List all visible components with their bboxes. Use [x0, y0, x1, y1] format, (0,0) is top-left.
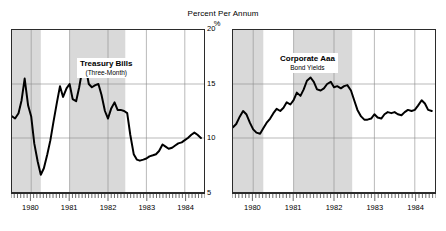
series-label-corporate-aaa-sub: Bond Yields: [280, 64, 335, 72]
x-axis-ticks-left: [11, 193, 205, 203]
x-tick-label-1983: 1983: [366, 204, 383, 212]
x-axis-right: 19801981198219831984: [232, 193, 436, 213]
series-label-treasury-bills-main: Treasury Bills: [80, 59, 132, 68]
x-tick-label-1984: 1984: [407, 204, 424, 212]
x-tick-label-1983: 1983: [138, 204, 155, 212]
y-tick-label-15: 15: [207, 80, 225, 88]
plot-frame-left: [11, 29, 205, 193]
y-tick-label-10: 10: [207, 134, 225, 142]
plot-area-treasury-bills: [12, 30, 204, 192]
figure-title: Percent Per Annum: [0, 9, 446, 18]
x-tick-label-1980: 1980: [22, 204, 39, 212]
recession-band-1: [233, 30, 263, 192]
recession-band-1: [12, 30, 41, 192]
x-tick-label-1981: 1981: [61, 204, 78, 212]
x-tick-label-1981: 1981: [285, 204, 302, 212]
x-tick-label-1984: 1984: [177, 204, 194, 212]
y-tick-label-20: 20: [207, 25, 225, 33]
x-tick-label-1980: 1980: [244, 204, 261, 212]
panel-treasury-bills: [11, 29, 205, 193]
series-label-corporate-aaa: Corporate Aaa Bond Yields: [277, 53, 338, 73]
series-label-corporate-aaa-main: Corporate Aaa: [280, 54, 335, 63]
y-tick-label-5: 5: [207, 189, 225, 197]
x-axis-labels-left: 19801981198219831984: [11, 204, 205, 214]
series-label-treasury-bills-sub: (Three-Month): [80, 69, 132, 77]
x-axis-left: 19801981198219831984: [11, 193, 205, 213]
series-label-treasury-bills: Treasury Bills (Three-Month): [77, 58, 135, 78]
economic-chart-figure: Percent Per Annum % 5101520 198019811982…: [0, 0, 446, 231]
recession-band-2: [70, 30, 126, 192]
x-tick-label-1982: 1982: [326, 204, 343, 212]
x-axis-ticks-right: [232, 193, 436, 203]
x-tick-label-1982: 1982: [100, 204, 117, 212]
y-axis-labels: 5101520: [207, 29, 225, 193]
x-axis-labels-right: 19801981198219831984: [232, 204, 436, 214]
